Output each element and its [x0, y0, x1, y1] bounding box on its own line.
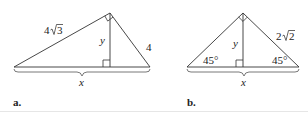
- right-angle-label-b: 45°: [272, 54, 287, 66]
- left-leg-label-a: 4 3: [44, 24, 63, 36]
- bottom-divider: [0, 111, 308, 112]
- brace-b: [187, 69, 299, 76]
- left-angle-label-b: 45°: [203, 54, 218, 66]
- brace-a: [14, 69, 150, 76]
- figure-a: x y 4 3 4 a.: [13, 13, 152, 108]
- altitude-label-b: y: [232, 37, 238, 49]
- right-leg-coef-b: 2: [276, 30, 282, 42]
- right-leg-label-a: 4: [146, 41, 152, 53]
- hypotenuse-label-a: x: [78, 76, 84, 88]
- right-leg-radicand-b: 2: [289, 30, 295, 42]
- left-leg-radicand-a: 3: [57, 24, 63, 36]
- part-label-a: a.: [13, 96, 22, 108]
- right-leg-label-b: 2 2: [276, 30, 295, 42]
- right-angle-mark-foot-a: [103, 60, 110, 67]
- left-leg-coef-a: 4: [44, 24, 50, 36]
- hypotenuse-label-b: x: [240, 76, 246, 88]
- figure-b: x y 2 2 45° 45° b.: [187, 13, 299, 108]
- right-angle-mark-foot-b: [236, 60, 243, 67]
- right-angle-mark-apex-a: [105, 16, 113, 21]
- triangle-a: [14, 13, 150, 67]
- diagram-canvas: x y 4 3 4 a. x y 2 2 45° 45° b.: [0, 0, 308, 115]
- part-label-b: b.: [187, 96, 196, 108]
- altitude-label-a: y: [99, 34, 105, 46]
